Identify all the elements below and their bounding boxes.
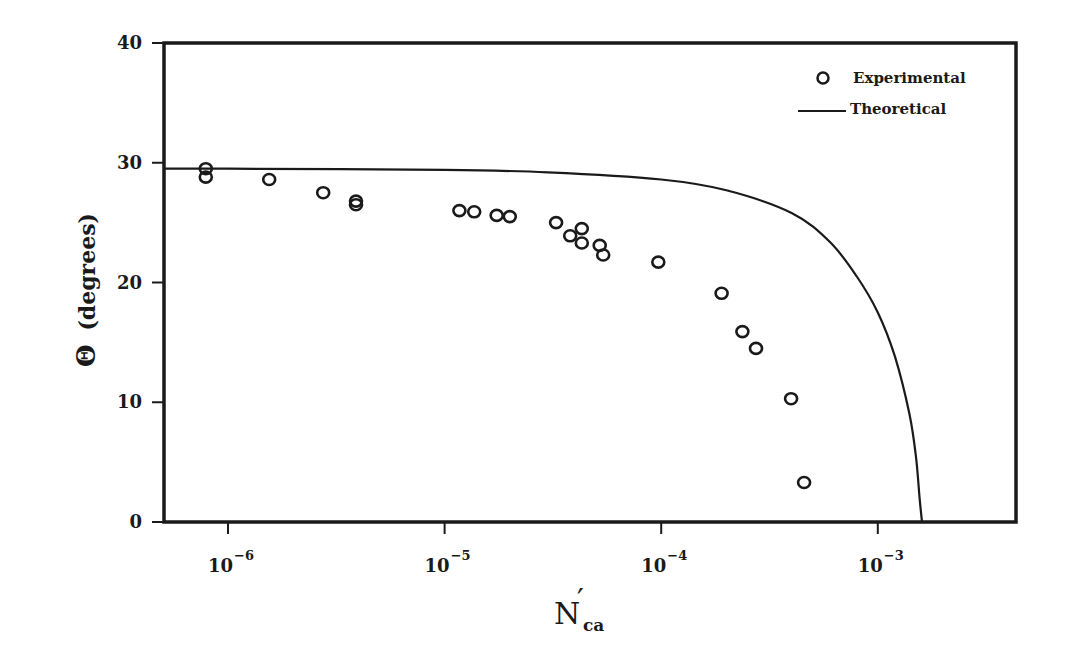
legend: Experimental Theoretical <box>798 69 966 118</box>
data-point <box>750 343 762 354</box>
y-tick-label: 0 <box>129 511 142 532</box>
data-point <box>736 326 748 337</box>
data-point <box>550 217 562 228</box>
data-point <box>716 288 728 299</box>
y-axis-symbol: Θ <box>71 344 101 367</box>
theoretical-curve <box>164 169 922 522</box>
x-axis-title-subscript: ca <box>583 615 604 635</box>
data-point <box>564 230 576 241</box>
data-point <box>504 211 516 222</box>
y-tick-label: 20 <box>117 272 142 293</box>
x-tick-label: 10−6 <box>208 548 254 576</box>
x-tick-label: 10−5 <box>425 548 471 576</box>
y-axis: 010203040 <box>117 32 164 532</box>
svg-text:Θ (degrees): Θ (degrees) <box>71 213 101 367</box>
data-point <box>576 223 588 234</box>
y-tick-label: 40 <box>117 32 142 53</box>
x-axis: 10−610−510−410−3 <box>208 522 904 576</box>
x-tick-label: 10−3 <box>858 548 904 576</box>
data-point <box>263 174 275 185</box>
y-tick-label: 30 <box>117 152 142 173</box>
data-point <box>453 205 465 216</box>
data-point <box>798 477 810 488</box>
theoretical-line <box>164 169 922 522</box>
y-tick-label: 10 <box>117 391 142 412</box>
x-tick-label: 10−4 <box>641 548 687 576</box>
y-axis-title: Θ (degrees) <box>71 213 101 367</box>
data-point <box>491 210 503 221</box>
legend-label-experimental: Experimental <box>853 69 966 87</box>
data-point <box>317 187 329 198</box>
y-axis-units: (degrees) <box>74 213 100 331</box>
experimental-points <box>200 163 810 488</box>
data-point <box>468 206 480 217</box>
legend-circle-icon <box>818 73 829 84</box>
chart-canvas: 010203040 10−610−510−410−3 Experimental … <box>0 0 1076 656</box>
data-point <box>785 393 797 404</box>
x-axis-title-prime: ′ <box>577 582 584 617</box>
data-point <box>576 238 588 249</box>
data-point <box>652 257 664 268</box>
legend-label-theoretical: Theoretical <box>850 100 947 118</box>
x-axis-title: N ′ ca <box>554 582 604 635</box>
